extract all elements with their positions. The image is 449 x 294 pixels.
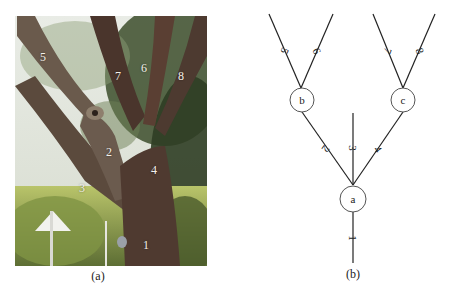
edge-label-4: 4 — [371, 143, 384, 155]
edge-label-7: 7 — [381, 46, 394, 56]
node-label-b: b — [299, 94, 305, 106]
node-label-a: a — [351, 193, 356, 205]
caption-b: (b) — [346, 267, 360, 281]
edge-label-6: 6 — [310, 46, 323, 56]
edge-label-1: 1 — [347, 235, 359, 241]
branching-diagram: b c a 5 6 7 8 2 3 4 1 (b) — [0, 0, 449, 294]
edge-label-5: 5 — [278, 46, 291, 56]
edge-label-8: 8 — [413, 46, 426, 56]
node-label-c: c — [401, 94, 406, 106]
edge-label-3: 3 — [347, 145, 359, 151]
edge-label-2: 2 — [320, 143, 333, 154]
